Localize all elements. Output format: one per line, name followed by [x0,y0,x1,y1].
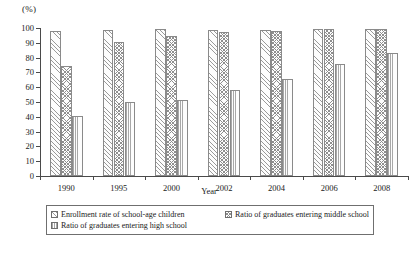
bar [103,30,114,176]
bar-group [155,28,188,176]
bar [61,66,72,176]
y-axis-tick [36,58,40,59]
y-axis-tick-label: 70 [4,68,34,77]
bar [72,116,83,176]
x-axis-title: Year [0,186,418,196]
y-axis-line [40,28,41,176]
y-axis-tick [36,87,40,88]
y-axis-tick [36,43,40,44]
diagonal-hatch-swatch-icon [51,211,58,218]
legend-label: Ratio of graduates entering high school [61,220,187,231]
bar [365,29,376,176]
bar [177,100,188,176]
y-axis-tick-label: 60 [4,83,34,92]
y-axis-tick-label: 50 [4,98,34,107]
y-axis-tick-label: 90 [4,39,34,48]
y-axis-tick-label: 30 [4,128,34,137]
y-axis-tick-label: 40 [4,113,34,122]
y-axis-tick [36,102,40,103]
bar-group [50,28,83,176]
bar-group [103,28,136,176]
y-axis-tick [36,161,40,162]
bar [219,32,230,176]
x-axis-tick [303,176,304,180]
x-axis-tick [250,176,251,180]
chart-legend: Enrollment rate of school-age children R… [46,205,374,235]
legend-label: Enrollment rate of school-age children [61,209,185,220]
y-axis-tick-label: 100 [4,24,34,33]
bar [324,29,335,176]
y-axis-tick [36,146,40,147]
bar-group [208,28,241,176]
bar-group [313,28,346,176]
y-axis-tick [36,117,40,118]
y-axis-tick [36,72,40,73]
bar [125,102,136,176]
y-axis-tick-label: 10 [4,157,34,166]
bar [114,42,125,176]
y-axis-tick-label: 0 [4,172,34,181]
x-axis-tick [355,176,356,180]
x-axis-tick [408,176,409,180]
vertical-lines-swatch-icon [51,222,58,229]
y-axis-tick-label: 80 [4,54,34,63]
x-axis-tick [93,176,94,180]
y-axis-tick [36,132,40,133]
legend-label: Ratio of graduates entering middle schoo… [235,209,369,220]
x-axis-tick [40,176,41,180]
x-axis-tick [198,176,199,180]
bar [208,30,219,176]
x-axis-line [40,176,408,177]
bar [271,31,282,176]
x-axis-tick [145,176,146,180]
bar-chart: (%) 0102030405060708090100 1990199520002… [0,0,418,253]
bar-group [365,28,398,176]
bar [376,29,387,176]
bar [260,30,271,176]
bar [155,29,166,176]
cross-hatch-swatch-icon [225,211,232,218]
bar [313,29,324,176]
legend-item-middle-school: Ratio of graduates entering middle schoo… [225,209,369,220]
bar [166,36,177,176]
bar [335,64,346,176]
bar [282,79,293,176]
y-axis-tick [36,28,40,29]
plot-area: 0102030405060708090100 19901995200020022… [40,28,408,176]
bar-group [260,28,293,176]
legend-item-high-school: Ratio of graduates entering high school [51,220,237,231]
bar [50,31,61,176]
bar [387,53,398,176]
bar [230,90,241,176]
legend-item-enrollment-rate: Enrollment rate of school-age children [51,209,225,220]
legend-row-1: Enrollment rate of school-age children R… [51,209,369,220]
y-axis-unit-label: (%) [22,4,36,14]
legend-row-2: Ratio of graduates entering high school [51,220,369,231]
y-axis-tick-label: 20 [4,142,34,151]
